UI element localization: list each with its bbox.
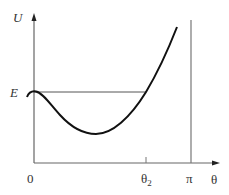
x-axis-arrow-icon [212, 161, 220, 166]
origin-label: 0 [27, 171, 34, 186]
energy-label: E [9, 85, 18, 100]
y-axis-arrow-icon [32, 13, 37, 21]
theta2-label: θ2 [141, 171, 152, 188]
y-axis-label: U [13, 10, 24, 25]
pi-label: π [186, 171, 193, 186]
potential-curve [27, 27, 177, 134]
x-axis-label: θ [211, 172, 217, 187]
potential-energy-plot: U E 0 θ2 π θ [0, 0, 229, 195]
